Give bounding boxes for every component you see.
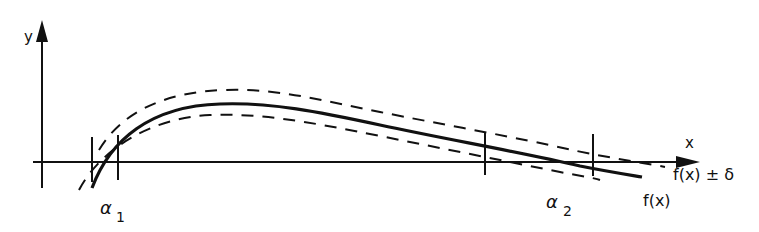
svg-text:α: α [546, 191, 558, 212]
function-curve [92, 104, 642, 188]
upper-tolerance-curve [99, 90, 665, 167]
root1-label: α 1 [100, 197, 125, 225]
curve-label: f(x) [643, 191, 671, 210]
svg-text:α: α [100, 197, 112, 218]
svg-text:2: 2 [563, 203, 572, 219]
diagram-canvas: y x α 1 α 2 f(x) ± δ f(x) [0, 0, 759, 232]
x-axis [33, 156, 700, 168]
x-axis-label: x [685, 134, 694, 152]
svg-text:1: 1 [116, 209, 125, 225]
band-label: f(x) ± δ [673, 165, 734, 184]
y-axis-label: y [24, 28, 33, 46]
root2-label: α 2 [546, 191, 572, 219]
y-axis-arrow-icon [36, 20, 48, 42]
